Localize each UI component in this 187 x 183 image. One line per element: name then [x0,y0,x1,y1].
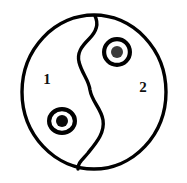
circle-partition-diagram: 1 2 [0,0,187,183]
region-label-1: 1 [43,71,51,87]
diagram-canvas: 1 2 [0,0,187,183]
concentric-circle-marker-upper-right [104,39,130,65]
marker-center-dot [56,115,68,127]
concentric-circle-marker-lower-left [49,109,75,133]
marker-center-dot [111,46,123,58]
region-label-2: 2 [139,79,147,95]
